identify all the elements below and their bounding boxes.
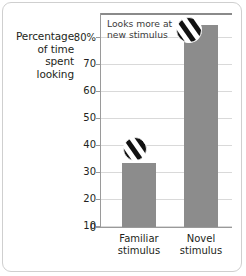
y-tick-mark-70 — [96, 64, 100, 65]
striped-circle-icon-familiar-svg — [123, 137, 147, 161]
x-category-novel-line-1: Novel — [162, 233, 240, 245]
y-tick-label-50: 50 — [52, 112, 96, 123]
y-tick-label-30: 30 — [52, 166, 96, 177]
plot-top-rule — [100, 13, 232, 15]
annotation-text: Looks more at new stimulus — [107, 18, 172, 40]
y-tick-label-70: 70 — [52, 58, 96, 69]
y-tick-mark-30 — [96, 172, 100, 173]
y-tick-label-80: 80% — [52, 32, 96, 43]
plot-area — [100, 13, 232, 228]
y-tick-label-20: 20 — [52, 193, 96, 204]
y-tick-mark-40 — [96, 145, 100, 146]
bar-novel-stimulus[interactable] — [184, 25, 218, 227]
x-category-label-novel: Novel stimulus — [162, 233, 240, 256]
y-axis-tick-labels: 80% 70 60 50 40 30 20 10 — [50, 13, 96, 228]
y-tick-label-60: 60 — [52, 85, 96, 96]
bar-familiar-stimulus[interactable] — [122, 163, 156, 228]
y-tick-mark-20 — [96, 199, 100, 200]
y-tick-label-40: 40 — [52, 139, 96, 150]
y-tick-mark-80 — [96, 37, 100, 38]
y-tick-mark-60 — [96, 91, 100, 92]
y-tick-label-0: 0 — [50, 222, 96, 233]
y-axis-line — [100, 13, 101, 228]
striped-circle-icon-familiar — [123, 137, 147, 161]
annotation-line-1: Looks more at — [107, 18, 172, 29]
x-axis-line — [100, 227, 232, 228]
figure-root: Percentage of time spent looking 80% 70 … — [0, 0, 246, 276]
x-category-novel-line-2: stimulus — [162, 245, 240, 257]
y-tick-mark-50 — [96, 118, 100, 119]
y-tick-mark-0 — [96, 227, 100, 228]
annotation-line-2: new stimulus — [107, 29, 172, 40]
striped-circle-icon-novel — [176, 17, 202, 43]
striped-circle-icon-novel-svg — [176, 17, 202, 43]
